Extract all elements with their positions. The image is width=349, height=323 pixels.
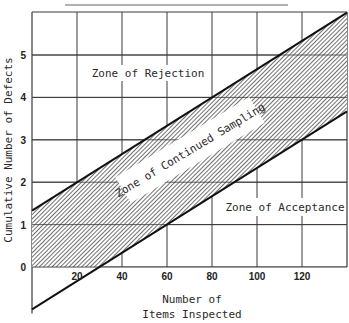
sequential-sampling-chart: 01234520406080100120 Zone of Continued S… xyxy=(0,0,349,323)
x-tick-label: 60 xyxy=(161,271,173,282)
y-tick-label: 1 xyxy=(20,220,26,231)
y-tick-label: 2 xyxy=(20,177,26,188)
y-tick-label: 3 xyxy=(20,135,26,146)
y-axis-title: Cumulative Number of Defects xyxy=(2,57,15,242)
x-tick-label: 40 xyxy=(116,271,128,282)
x-tick-label: 80 xyxy=(206,271,218,282)
x-tick-label: 20 xyxy=(71,271,83,282)
zone-acceptance-label: Zone of Acceptance xyxy=(225,201,344,214)
x-tick-label: 120 xyxy=(294,271,311,282)
zone-rejection-label: Zone of Rejection xyxy=(92,67,205,80)
y-tick-label: 4 xyxy=(20,92,26,103)
x-tick-label: 100 xyxy=(249,271,266,282)
y-tick-label: 0 xyxy=(20,262,26,273)
x-axis-title-line2: Items Inspected xyxy=(142,308,241,321)
y-tick-label: 5 xyxy=(20,50,26,61)
x-axis-title-line1: Number of xyxy=(162,293,222,306)
